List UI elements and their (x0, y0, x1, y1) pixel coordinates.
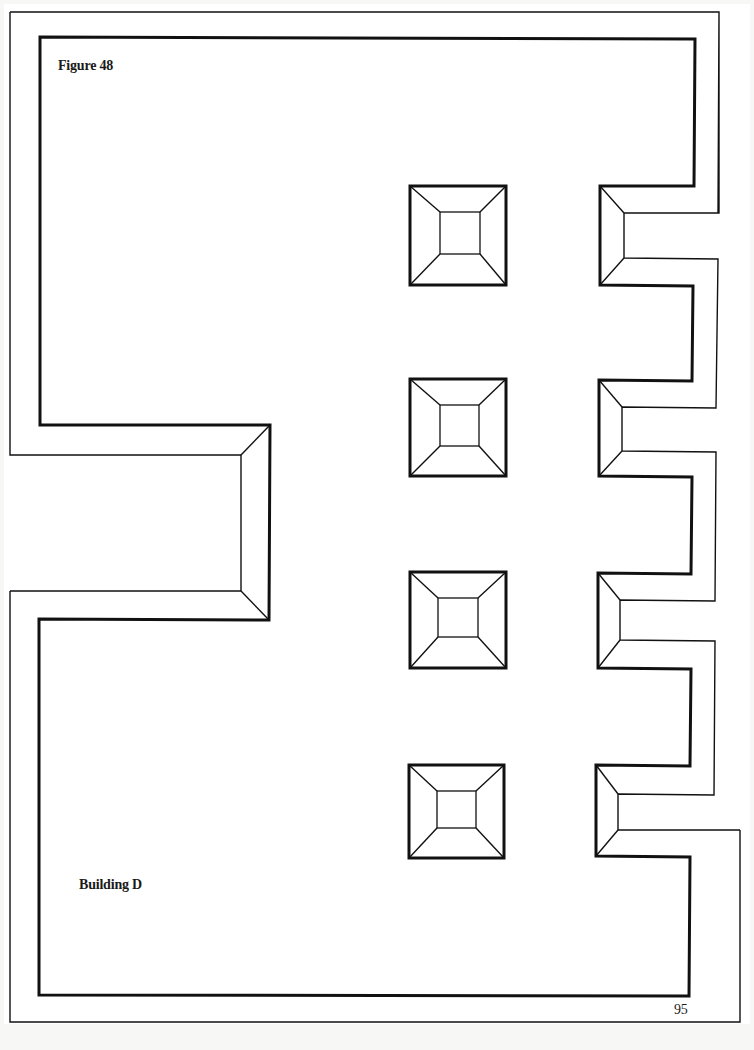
pillar-3 (410, 572, 506, 668)
page-number: 95 (674, 1002, 688, 1018)
building-label: Building D (79, 877, 142, 893)
paper-sheet (4, 4, 750, 1024)
figure-title: Figure 48 (58, 58, 113, 74)
pillar-1 (410, 186, 506, 285)
pillar-4 (409, 765, 504, 858)
pillar-2 (410, 379, 506, 476)
